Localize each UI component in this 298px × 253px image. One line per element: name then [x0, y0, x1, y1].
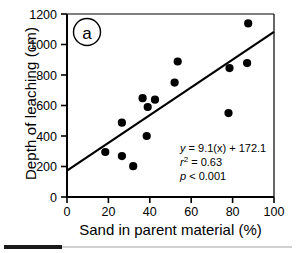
x-tick-label-0: 0 [64, 205, 71, 219]
y-tick-label-0: 0 [50, 191, 57, 205]
x-tick-label-60: 60 [184, 205, 198, 219]
panel-label-text: a [82, 24, 92, 43]
x-tick-label-40: 40 [143, 205, 157, 219]
data-point [143, 132, 151, 140]
figure-panel-a: Depth of leaching (cm) Sand in parent ma… [0, 0, 298, 253]
y-tick-label-200: 200 [36, 160, 57, 174]
data-point [224, 109, 232, 117]
data-point [139, 94, 147, 102]
data-point [118, 119, 126, 127]
x-tick-label-80: 80 [226, 205, 240, 219]
y-tick-label-1200: 1200 [29, 8, 57, 22]
y-tick-label-1000: 1000 [29, 38, 57, 52]
data-point [225, 64, 233, 72]
data-point [244, 19, 252, 27]
bottom-rule-light-segment [62, 246, 292, 248]
r-squared-line: r2 = 0.63 [180, 155, 222, 168]
data-point [243, 59, 251, 67]
equation-body: = 9.1(x) + 172.1 [186, 142, 267, 154]
bottom-rule-dark-segment [4, 245, 62, 249]
y-tick-label-800: 800 [36, 69, 57, 83]
y-tick-label-400: 400 [36, 130, 57, 144]
p-value: < 0.001 [186, 170, 226, 182]
x-tick-label-100: 100 [264, 205, 285, 219]
stats-annotation: y = 9.1(x) + 172.1 r2 = 0.63 p < 0.001 [179, 142, 266, 182]
data-point [174, 57, 182, 65]
data-point [171, 79, 179, 87]
p-value-line: p < 0.001 [179, 170, 226, 182]
x-tick-label-20: 20 [101, 205, 115, 219]
panel-label-badge: a [74, 19, 101, 46]
scatter-plot-svg: 0 200 400 600 800 1000 1200 0 20 40 60 8… [0, 0, 298, 253]
data-point [129, 162, 137, 170]
r-squared-value: = 0.63 [188, 156, 222, 168]
equation-line: y = 9.1(x) + 172.1 [179, 142, 266, 154]
data-point [101, 148, 109, 156]
y-tick-label-600: 600 [36, 99, 57, 113]
p-symbol: p [179, 170, 186, 182]
data-point [144, 103, 152, 111]
data-point [118, 152, 126, 160]
data-point [151, 96, 159, 104]
